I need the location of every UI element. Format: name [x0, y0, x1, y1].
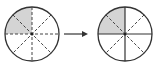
right-circle-quarters — [98, 7, 152, 61]
left-circle-eighths — [5, 7, 59, 61]
arrow-icon — [64, 31, 88, 37]
fraction-diagram — [0, 0, 156, 71]
